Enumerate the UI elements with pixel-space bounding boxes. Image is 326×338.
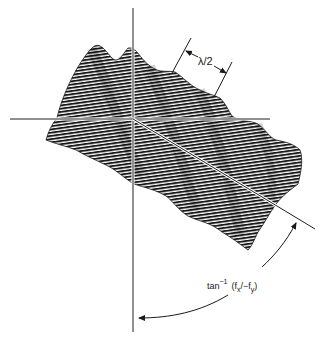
dimension-arrow-right (214, 66, 226, 73)
extension-line-left (172, 38, 191, 73)
grating-diagram: λ/2 tan−1(fx/−fy) (0, 0, 326, 338)
wavelength-label: λ/2 (198, 55, 213, 67)
wave-surface (46, 45, 302, 250)
angle-label: tan−1(fx/−fy) (207, 278, 257, 294)
angle-arc-lower (139, 295, 228, 318)
dimension-arrow-left (186, 51, 198, 57)
angle-arc-upper (262, 223, 296, 267)
angle-indicator: tan−1(fx/−fy) (139, 223, 296, 318)
